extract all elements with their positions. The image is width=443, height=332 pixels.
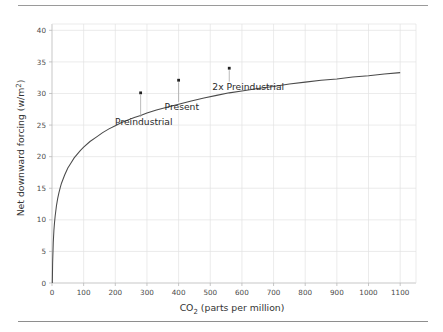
y-tick-label: 30 [37, 89, 47, 98]
y-axis-title-rest: ) [15, 80, 26, 84]
x-tick-label: 800 [298, 288, 312, 297]
x-tick-label: 0 [50, 288, 55, 297]
data-point-marker [177, 79, 180, 82]
y-tick-label: 0 [41, 279, 46, 288]
x-tick-label: 900 [330, 288, 344, 297]
data-point-marker [139, 91, 142, 94]
co2-forcing-line-chart: 010020030040050060070080090010001100 051… [0, 0, 443, 332]
x-tick-label: 400 [172, 288, 186, 297]
axis-lines [52, 24, 416, 283]
y-tick-label: 40 [37, 26, 47, 35]
annotation-label: 2x Preindustrial [212, 81, 284, 92]
y-tick-label: 35 [37, 58, 46, 67]
data-point-marker [228, 67, 231, 70]
annotation-label: Present [165, 101, 200, 112]
y-tick-label: 5 [41, 247, 46, 256]
annotation-label: Preindustrial [115, 116, 173, 127]
x-axis-title: CO2 (parts per million) [180, 302, 285, 316]
annotations: PreindustrialPresent2x Preindustrial [115, 67, 284, 127]
figure-container: 010020030040050060070080090010001100 051… [0, 0, 443, 332]
x-tick-label: 1100 [391, 288, 410, 297]
chart-plot-area: 010020030040050060070080090010001100 051… [0, 0, 443, 332]
x-tick-label: 100 [77, 288, 91, 297]
x-tick-label: 1000 [359, 288, 378, 297]
y-tick-label: 20 [37, 152, 47, 161]
y-tick-labels: 0510152025303540 [37, 26, 52, 288]
y-axis-title: Net downward forcing (w/m2) [15, 80, 27, 217]
grid-lines [52, 24, 416, 283]
x-axis-title-rest: (parts per million) [198, 302, 284, 313]
x-tick-label: 600 [235, 288, 249, 297]
y-tick-label: 25 [37, 121, 46, 130]
x-tick-label: 700 [267, 288, 281, 297]
x-tick-labels: 010020030040050060070080090010001100 [50, 283, 410, 297]
y-tick-label: 15 [37, 184, 46, 193]
x-tick-label: 200 [108, 288, 122, 297]
x-tick-label: 300 [140, 288, 154, 297]
x-tick-label: 500 [203, 288, 217, 297]
y-tick-label: 10 [37, 215, 47, 224]
